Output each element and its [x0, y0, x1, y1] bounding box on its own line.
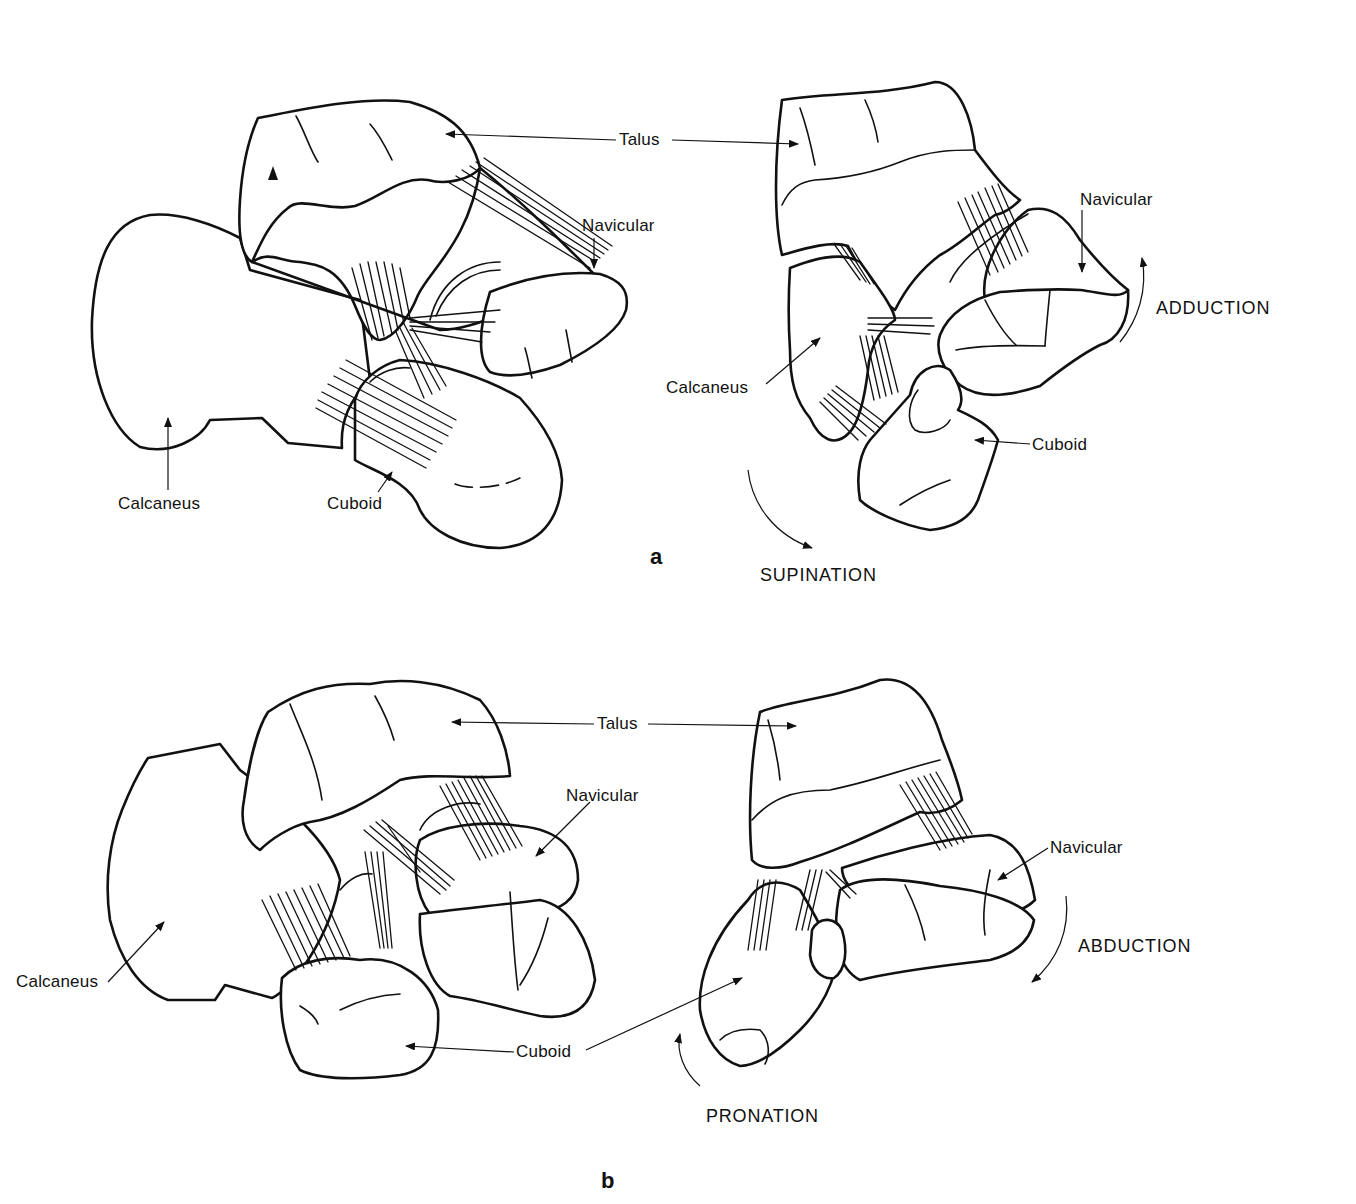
- motion-adduction: ADDUCTION: [1156, 298, 1270, 319]
- cuneiform-bones: [938, 289, 1128, 395]
- cuboid-bone: [355, 360, 562, 548]
- label-talus-a: Talus: [619, 130, 660, 150]
- label-calcaneus-b: Calcaneus: [16, 972, 98, 992]
- label-navicular-b-left: Navicular: [566, 786, 639, 806]
- panel-label-b: b: [601, 1168, 614, 1194]
- cuboid-bone-b-right: [700, 883, 835, 1066]
- panel-b-right-drawing: [679, 680, 1067, 1086]
- panel-a-right-drawing: [748, 82, 1144, 548]
- navicular-bone: [481, 273, 627, 375]
- label-cuboid-a-right: Cuboid: [1032, 435, 1087, 455]
- foot-bones-diagram: [0, 0, 1356, 1204]
- cuboid-bone-b: [281, 958, 438, 1078]
- motion-pronation: PRONATION: [706, 1106, 819, 1127]
- label-cuboid-a-left: Cuboid: [327, 494, 382, 514]
- label-cuboid-b: Cuboid: [516, 1042, 571, 1062]
- motion-supination: SUPINATION: [760, 565, 877, 586]
- panel-label-a: a: [650, 544, 662, 570]
- motion-abduction: ABDUCTION: [1078, 936, 1191, 957]
- cuneiform-bones-b: [420, 900, 595, 1017]
- supination-arrow: [748, 470, 812, 548]
- talus-bone: [239, 101, 480, 262]
- panel-a-left-drawing: [92, 101, 627, 548]
- panel-b-left-drawing: [108, 681, 595, 1078]
- label-navicular-b-right: Navicular: [1050, 838, 1123, 858]
- label-calcaneus-a-left: Calcaneus: [118, 494, 200, 514]
- label-talus-b: Talus: [597, 714, 638, 734]
- lateral-cuneiform: [810, 920, 845, 978]
- abduction-arrow: [1032, 896, 1067, 982]
- label-calcaneus-a-right: Calcaneus: [666, 378, 748, 398]
- label-navicular-a-right: Navicular: [1080, 190, 1153, 210]
- label-navicular-a-left: Navicular: [582, 216, 655, 236]
- pronation-arrow: [679, 1034, 700, 1086]
